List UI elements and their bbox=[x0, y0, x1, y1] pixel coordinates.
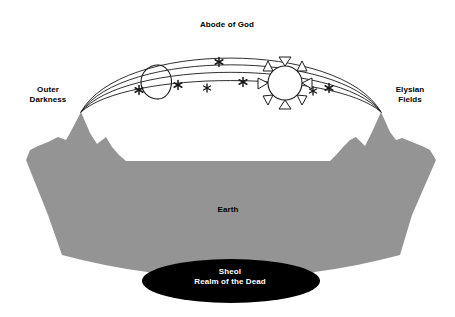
sun-ray bbox=[279, 100, 291, 109]
firmament-arc-4 bbox=[81, 81, 381, 113]
sun-disc bbox=[268, 66, 302, 100]
sun-ray bbox=[302, 78, 312, 89]
label-abode-of-god: Abode of God bbox=[172, 20, 282, 30]
star bbox=[239, 78, 247, 87]
label-elysian-fields: Elysian Fields bbox=[372, 85, 448, 106]
label-outer-darkness: Outer Darkness bbox=[8, 85, 88, 106]
sun-ray bbox=[258, 78, 268, 89]
firmament-arc-1 bbox=[81, 58, 381, 112]
sun-ray bbox=[297, 95, 307, 105]
sun-ray bbox=[263, 95, 273, 105]
sun-ray bbox=[297, 61, 307, 71]
star bbox=[204, 84, 211, 92]
cosmology-diagram: Abode of God Outer Darkness Elysian Fiel… bbox=[0, 0, 455, 317]
star bbox=[174, 81, 182, 90]
earth-mass bbox=[26, 112, 436, 278]
earth-group bbox=[26, 112, 436, 278]
label-sheol: Sheol Realm of the Dead bbox=[160, 267, 300, 288]
label-earth: Earth bbox=[193, 205, 263, 215]
sun-icon bbox=[258, 57, 312, 109]
firmament-arcs bbox=[81, 58, 381, 112]
